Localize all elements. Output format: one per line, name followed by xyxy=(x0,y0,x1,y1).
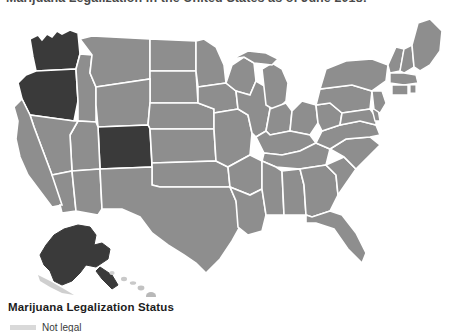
state-rhode-island xyxy=(410,85,416,93)
alaska-panhandle xyxy=(96,267,118,289)
legend-title: Marijuana Legalization Status xyxy=(8,301,174,313)
hawaii-island-molokai xyxy=(130,281,136,285)
state-minnesota xyxy=(196,39,226,87)
us-choropleth-map xyxy=(0,9,467,297)
hawaii-island-oahu xyxy=(121,277,127,281)
state-colorado xyxy=(98,125,152,169)
state-wyoming xyxy=(96,79,150,127)
state-connecticut xyxy=(392,85,408,95)
state-oklahoma xyxy=(152,161,230,187)
state-mississippi xyxy=(262,161,284,215)
state-maine xyxy=(412,19,442,71)
state-nebraska xyxy=(148,103,214,129)
hawaii-island-maui xyxy=(138,286,145,291)
state-kansas xyxy=(150,129,216,163)
legend-item: Not legal xyxy=(10,322,81,332)
state-georgia xyxy=(300,165,338,217)
state-north-dakota xyxy=(150,39,196,71)
map-legend: Marijuana Legalization Status Not legal xyxy=(0,297,467,332)
state-new-mexico xyxy=(72,169,102,215)
hawaii-island-kauai xyxy=(109,271,114,275)
state-washington xyxy=(30,30,80,71)
state-new-jersey xyxy=(372,91,386,113)
alaska-inset xyxy=(38,225,118,295)
state-ohio xyxy=(290,101,318,135)
legend-swatch xyxy=(10,325,36,330)
state-florida xyxy=(306,211,366,263)
legend-item-label: Not legal xyxy=(42,322,81,332)
state-massachusetts xyxy=(390,73,418,85)
state-south-dakota xyxy=(150,71,198,103)
page-title-strip: Marijuana Legalization in the United Sta… xyxy=(0,0,467,9)
state-new-york xyxy=(320,59,388,91)
map-svg xyxy=(0,9,467,297)
page-title: Marijuana Legalization in the United Sta… xyxy=(6,0,367,5)
